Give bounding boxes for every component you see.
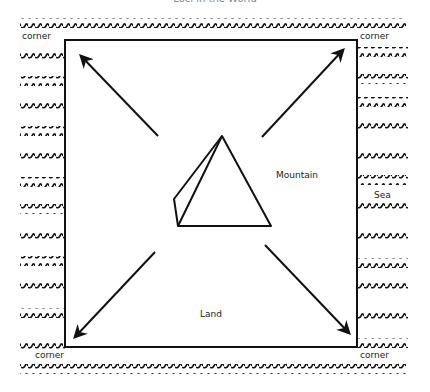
world-diagram [0, 0, 430, 392]
wave-row [358, 74, 408, 84]
wave-row [20, 308, 65, 318]
wave-row [358, 47, 408, 57]
arrow-bottom-left [75, 252, 155, 337]
label-corner-bottom-right: corner [360, 350, 389, 360]
wave-row [20, 76, 65, 86]
arrow-top-left [81, 56, 158, 136]
wave-row [358, 230, 408, 240]
sea-waves-left [20, 49, 65, 349]
wave-row [20, 256, 65, 266]
label-land: Land [200, 309, 222, 319]
label-corner-top-right: corner [360, 31, 389, 41]
wave-row [358, 123, 408, 133]
wave-row [20, 177, 65, 187]
wave-row [358, 175, 408, 185]
wave-row [20, 102, 65, 112]
wave-row [358, 283, 408, 293]
wave-row [20, 126, 65, 136]
wave-row [20, 231, 65, 241]
wave-row [20, 339, 65, 349]
wave-row [20, 282, 65, 292]
wave-row [20, 49, 65, 59]
wave-row [20, 152, 65, 162]
wave-row [358, 338, 408, 348]
wave-row [358, 202, 408, 212]
wave-row [358, 258, 408, 268]
label-corner-top-left: corner [22, 31, 51, 41]
arrow-top-right [262, 50, 343, 137]
mountain-pyramid [174, 136, 271, 226]
wave-row [358, 150, 408, 160]
sea-wave-bottom [20, 364, 406, 374]
label-corner-bottom-left: corner [35, 350, 64, 360]
label-mountain: Mountain [276, 170, 318, 180]
label-sea: Sea [374, 190, 391, 200]
wave-row [358, 97, 408, 107]
wave-row [20, 204, 65, 214]
sea-wave-top [20, 18, 406, 28]
wave-row [358, 310, 408, 320]
arrow-bottom-right [265, 245, 349, 333]
